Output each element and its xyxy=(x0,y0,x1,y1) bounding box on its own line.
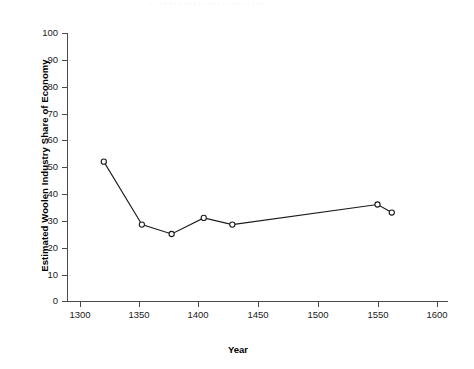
data-point xyxy=(169,231,174,236)
data-point xyxy=(201,215,206,220)
series-markers xyxy=(101,159,394,237)
data-point xyxy=(139,222,144,227)
data-point xyxy=(101,159,106,164)
line-chart: 100 90 80 70 60 50 40 30 20 10 0 1300 13… xyxy=(0,0,474,369)
data-point xyxy=(389,210,394,215)
chart-page: · · · · · · · · · · · · · · · · · · · · … xyxy=(0,0,474,369)
series-line xyxy=(104,162,392,234)
data-point xyxy=(375,202,380,207)
data-point xyxy=(230,222,235,227)
series-plot xyxy=(0,0,474,369)
